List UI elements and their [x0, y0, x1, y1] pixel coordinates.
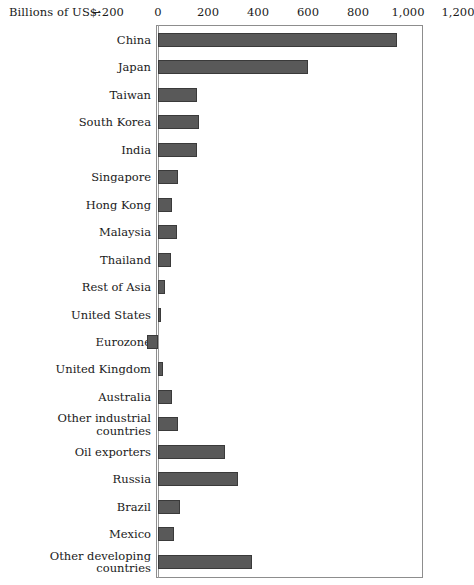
- bar: [158, 33, 397, 47]
- category-label: Thailand: [1, 253, 151, 266]
- category-label: Japan: [1, 61, 151, 74]
- x-tick-label: 200: [197, 5, 219, 19]
- x-tick-label: −200: [92, 5, 124, 19]
- bar: [147, 335, 158, 349]
- category-label: Mexico: [1, 528, 151, 541]
- x-tick-label: 0: [154, 5, 161, 19]
- x-tick-label: 600: [297, 5, 319, 19]
- axis-title: Billions of US$:: [9, 5, 101, 19]
- bar: [158, 555, 252, 569]
- category-label: Russia: [1, 473, 151, 486]
- bar: [158, 60, 308, 74]
- x-tick-label: 1,000: [392, 5, 425, 19]
- bar: [158, 253, 171, 267]
- x-tick-label: 1,200: [442, 5, 474, 19]
- bar: [158, 390, 172, 404]
- bar: [158, 445, 225, 459]
- category-label: South Korea: [1, 116, 151, 129]
- category-label: Other developing countries: [1, 549, 151, 574]
- bar: [158, 472, 238, 486]
- category-label: Malaysia: [1, 226, 151, 239]
- bar: [158, 225, 177, 239]
- category-label: Rest of Asia: [1, 281, 151, 294]
- bar: [158, 143, 197, 157]
- bar: [158, 280, 165, 294]
- category-label: Hong Kong: [1, 198, 151, 211]
- category-label: Eurozone: [1, 336, 151, 349]
- x-tick-label: 400: [247, 5, 269, 19]
- zero-baseline: [158, 25, 159, 578]
- plot-frame: [156, 25, 423, 578]
- category-label: Singapore: [1, 171, 151, 184]
- x-tick-label: 800: [347, 5, 369, 19]
- category-label: Oil exporters: [1, 446, 151, 459]
- category-label: United Kingdom: [1, 363, 151, 376]
- category-label: Other industrial countries: [1, 412, 151, 437]
- bar: [158, 308, 161, 322]
- category-label: Taiwan: [1, 89, 151, 102]
- category-label: Australia: [1, 391, 151, 404]
- bar: [158, 417, 178, 431]
- bar: [158, 115, 199, 129]
- category-label: Brazil: [1, 500, 151, 513]
- bar: [158, 527, 174, 541]
- bar: [158, 170, 178, 184]
- category-label: China: [1, 34, 151, 47]
- category-label: India: [1, 144, 151, 157]
- bar: [158, 198, 172, 212]
- bar: [158, 500, 180, 514]
- bar: [158, 88, 197, 102]
- bar: [158, 362, 163, 376]
- category-label: United States: [1, 308, 151, 321]
